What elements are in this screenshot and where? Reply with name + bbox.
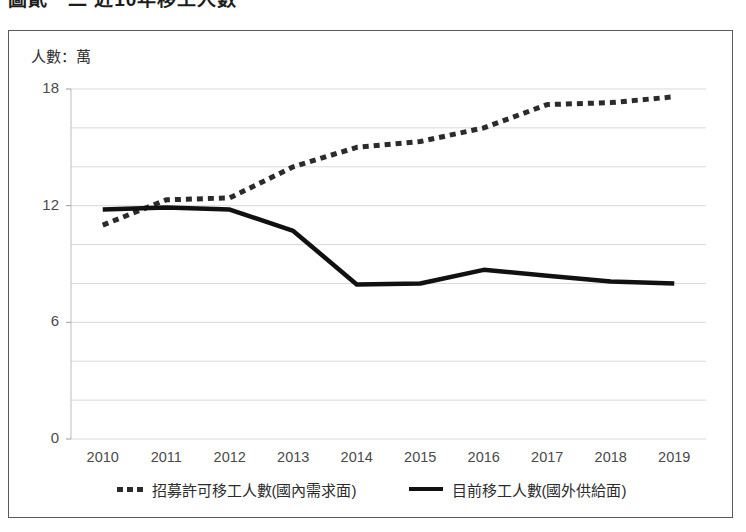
- legend-item-1[interactable]: 招募許可移工人數(國內需求面): [117, 479, 357, 500]
- x-axis-tick-label: 2014: [327, 449, 387, 465]
- chart-legend: 招募許可移工人數(國內需求面)目前移工人數(國外供給面): [9, 471, 734, 507]
- figure-title: 圖貳－二 近10年移工人數: [8, 0, 237, 11]
- figure-frame: 人數：萬 181260 2010201120122013201420152016…: [8, 30, 733, 518]
- x-axis-tick-label: 2012: [200, 449, 260, 465]
- x-axis-tick-label: 2018: [581, 449, 641, 465]
- plot-area: 181260 201020112012201320142015201620172…: [9, 31, 734, 461]
- y-axis-tick-label: 12: [19, 196, 59, 213]
- legend-dotted-swatch-icon: [117, 487, 143, 492]
- y-axis-tick-label: 6: [19, 312, 59, 329]
- x-axis-tick-label: 2010: [73, 449, 133, 465]
- chart-svg: [9, 31, 734, 461]
- y-axis-tick-label: 18: [19, 79, 59, 96]
- x-axis-tick-label: 2013: [263, 449, 323, 465]
- x-axis-tick-label: 2017: [517, 449, 577, 465]
- x-axis-tick-label: 2016: [454, 449, 514, 465]
- series-line-2: [103, 208, 675, 285]
- x-axis-tick-label: 2019: [644, 449, 704, 465]
- figure-title-strip: 圖貳－二 近10年移工人數: [0, 0, 746, 16]
- legend-solid-swatch-icon: [409, 487, 443, 491]
- x-axis-tick-label: 2015: [390, 449, 450, 465]
- legend-item-2[interactable]: 目前移工人數(國外供給面): [409, 479, 627, 500]
- y-axis-tick-label: 0: [19, 429, 59, 446]
- x-axis-tick-label: 2011: [136, 449, 196, 465]
- legend-item-label: 目前移工人數(國外供給面): [452, 479, 627, 500]
- legend-item-label: 招募許可移工人數(國內需求面): [152, 479, 357, 500]
